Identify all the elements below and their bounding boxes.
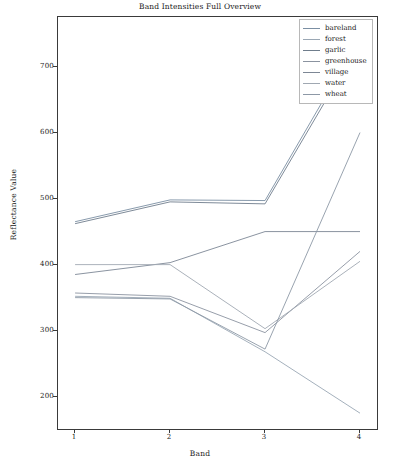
legend-item-forest[interactable]: forest: [303, 34, 367, 45]
legend-line-swatch-forest: [303, 39, 320, 40]
y-axis-tick-300: 300: [14, 326, 54, 334]
legend-item-bareland[interactable]: bareland: [303, 23, 367, 34]
legend-label: village: [325, 67, 348, 78]
legend-line-swatch-village: [303, 72, 320, 73]
y-axis-tick-500: 500: [14, 194, 54, 202]
x-axis-tick-3: 3: [262, 433, 267, 441]
y-axis-tick-600: 600: [14, 128, 54, 136]
y-axis-tick-200: 200: [14, 392, 54, 400]
legend-label: water: [325, 78, 345, 89]
legend-label: forest: [325, 34, 346, 45]
x-axis-tick-2: 2: [167, 433, 172, 441]
legend-line-swatch-water: [303, 83, 320, 84]
line-series-village: [75, 232, 360, 275]
legend-line-swatch-garlic: [303, 50, 320, 51]
legend-item-water[interactable]: water: [303, 78, 367, 89]
legend-item-garlic[interactable]: garlic: [303, 45, 367, 56]
chart-figure: Band Intensities Full Overview 200300400…: [0, 0, 400, 472]
legend-line-swatch-wheat: [303, 94, 320, 95]
y-axis-tickmark: [53, 396, 57, 397]
legend-item-village[interactable]: village: [303, 67, 367, 78]
legend-line-swatch-greenhouse: [303, 61, 320, 62]
y-axis-tick-700: 700: [14, 62, 54, 70]
legend-label: garlic: [325, 45, 345, 56]
y-axis-tickmark: [53, 66, 57, 67]
y-axis-tick-400: 400: [14, 260, 54, 268]
y-axis-tickmark: [53, 132, 57, 133]
x-axis-tick-1: 1: [72, 433, 77, 441]
y-axis-tick-labels: 200300400500600700: [12, 0, 54, 472]
line-series-wheat: [75, 133, 360, 350]
line-series-forest: [75, 296, 360, 413]
x-axis-tickmark: [359, 430, 360, 433]
x-axis-label: Band: [0, 449, 400, 458]
y-axis-tickmark: [53, 198, 57, 199]
y-axis-tickmark: [53, 264, 57, 265]
x-axis-tickmark: [169, 430, 170, 433]
page-title: Band Intensities Full Overview: [0, 2, 400, 11]
legend[interactable]: barelandforestgarlicgreenhousevillagewat…: [299, 19, 373, 104]
y-axis-tickmark: [53, 330, 57, 331]
legend-label: greenhouse: [325, 56, 367, 67]
legend-label: bareland: [325, 23, 357, 34]
legend-item-wheat[interactable]: wheat: [303, 89, 367, 100]
legend-item-greenhouse[interactable]: greenhouse: [303, 56, 367, 67]
x-axis-tickmark: [74, 430, 75, 433]
y-axis-label: Reflectance Value: [9, 130, 18, 280]
legend-line-swatch-bareland: [303, 28, 320, 29]
x-axis-tickmark: [264, 430, 265, 433]
x-axis-tick-4: 4: [357, 433, 362, 441]
legend-label: wheat: [325, 89, 347, 100]
line-series-water: [75, 261, 360, 328]
